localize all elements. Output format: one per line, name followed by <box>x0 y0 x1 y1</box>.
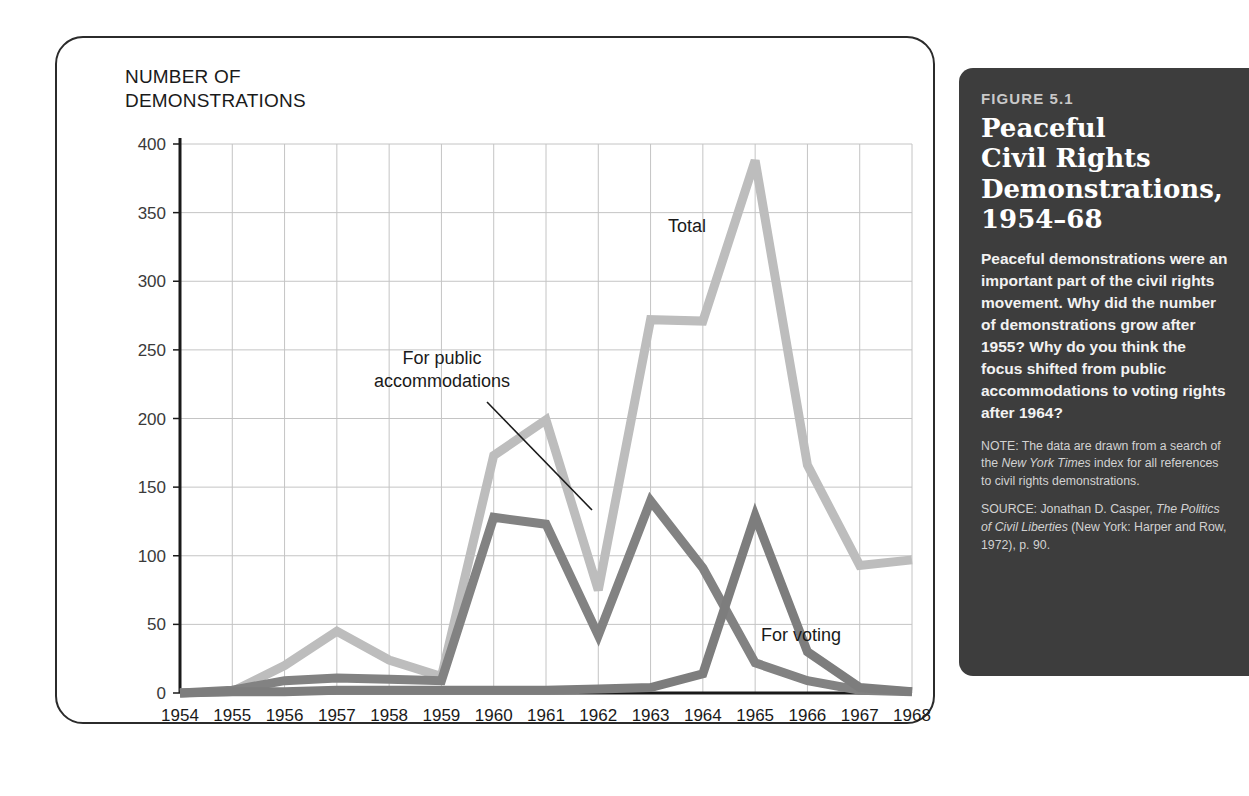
y-tick-label: 400 <box>138 135 166 154</box>
y-tick-label: 100 <box>138 547 166 566</box>
note-italic-title: New York Times <box>1002 456 1091 470</box>
x-tick-label: 1955 <box>213 706 251 725</box>
y-tick-label: 200 <box>138 410 166 429</box>
x-tick-label: 1960 <box>475 706 513 725</box>
x-tick-label: 1964 <box>684 706 722 725</box>
x-tick-label: 1954 <box>161 706 199 725</box>
x-tick-label: 1962 <box>579 706 617 725</box>
line-chart-svg: 050100150200250300350400 195419551956195… <box>57 38 937 726</box>
note-label: NOTE: <box>981 439 1019 453</box>
y-axis-ticks: 050100150200250300350400 <box>138 135 180 703</box>
figure-note: NOTE: The data are drawn from a search o… <box>981 438 1231 491</box>
y-tick-label: 250 <box>138 341 166 360</box>
figure-body-text: Peaceful demonstrations were an importan… <box>981 248 1231 424</box>
x-tick-label: 1967 <box>841 706 879 725</box>
y-tick-label: 150 <box>138 478 166 497</box>
annotation-voting: For voting <box>761 625 841 645</box>
chart-card: NUMBER OF DEMONSTRATIONS 050100150200250… <box>55 36 935 724</box>
x-tick-label: 1959 <box>423 706 461 725</box>
y-tick-label: 350 <box>138 204 166 223</box>
x-tick-label: 1966 <box>789 706 827 725</box>
figure-source: SOURCE: Jonathan D. Casper, The Politics… <box>981 501 1231 554</box>
x-tick-label: 1965 <box>736 706 774 725</box>
y-tick-label: 50 <box>147 615 166 634</box>
caption-panel: FIGURE 5.1 Peaceful Civil Rights Demonst… <box>959 68 1249 676</box>
x-axis-ticks: 1954195519561957195819591960196119621963… <box>161 706 931 725</box>
x-tick-label: 1957 <box>318 706 356 725</box>
x-tick-label: 1968 <box>893 706 931 725</box>
figure-number: FIGURE 5.1 <box>981 90 1231 107</box>
series-annotations: TotalFor publicaccommodationsFor voting <box>374 216 841 645</box>
y-tick-label: 0 <box>157 684 166 703</box>
plot-area: 050100150200250300350400 195419551956195… <box>57 38 937 726</box>
annotation-total: Total <box>668 216 706 236</box>
x-tick-label: 1958 <box>370 706 408 725</box>
annotation-accommodations-line1: For public <box>402 348 481 368</box>
x-tick-label: 1956 <box>266 706 304 725</box>
annotation-accommodations-line2: accommodations <box>374 371 510 391</box>
figure-title: Peaceful Civil Rights Demonstrations, 19… <box>981 113 1231 235</box>
x-tick-label: 1963 <box>632 706 670 725</box>
source-label: SOURCE: <box>981 502 1037 516</box>
x-tick-label: 1961 <box>527 706 565 725</box>
source-text-part1: Jonathan D. Casper, <box>1037 502 1156 516</box>
y-tick-label: 300 <box>138 272 166 291</box>
